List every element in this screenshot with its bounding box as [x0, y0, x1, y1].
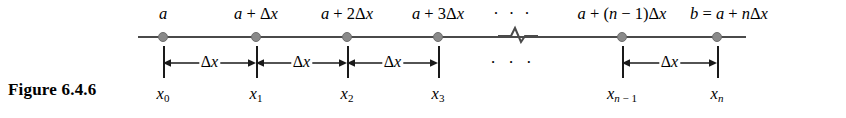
partition-point-xn	[712, 32, 722, 42]
bottom-label-2: x2	[341, 86, 354, 104]
partition-point-x1	[251, 32, 261, 42]
top-label-0: a	[159, 6, 167, 23]
axis-break-icon	[498, 24, 538, 44]
top-label-4: · · ·	[493, 6, 533, 23]
partition-point-x2	[342, 32, 352, 42]
bottom-label-1: x1	[250, 86, 263, 104]
top-label-6: b = a + nΔx	[690, 6, 768, 23]
measurement-ellipsis: · · ·	[490, 53, 535, 73]
figure-container: Figure 6.4.6 aa + Δxa + 2Δxa + 3Δx· · ·a…	[0, 0, 846, 118]
measurement-tick-5	[717, 46, 719, 78]
top-label-1: a + Δx	[234, 6, 278, 23]
bottom-label-3: x3	[432, 86, 445, 104]
top-label-5: a + (n − 1)Δx	[578, 6, 667, 23]
partition-point-x0	[158, 32, 168, 42]
measurement-tick-3	[438, 46, 440, 78]
bottom-label-4: xn − 1	[607, 86, 637, 104]
partition-point-xn-1	[617, 32, 627, 42]
delta-x-label-3: Δx	[659, 53, 680, 71]
partition-point-x3	[433, 32, 443, 42]
delta-x-label-1: Δx	[291, 53, 312, 71]
top-label-3: a + 3Δx	[412, 6, 464, 23]
top-label-2: a + 2Δx	[321, 6, 373, 23]
delta-x-label-0: Δx	[199, 53, 220, 71]
bottom-label-0: x0	[157, 86, 170, 104]
figure-caption: Figure 6.4.6	[8, 80, 97, 100]
bottom-label-5: xn	[711, 86, 724, 104]
delta-x-label-2: Δx	[382, 53, 403, 71]
